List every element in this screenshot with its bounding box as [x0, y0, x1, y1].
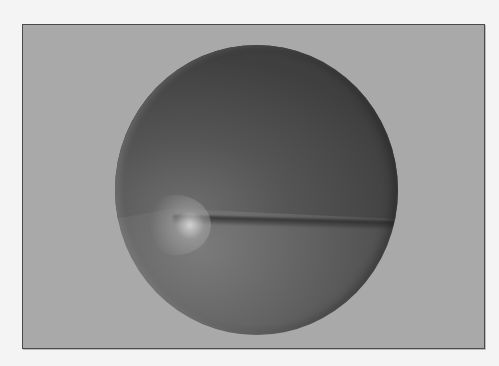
- sphere-rim-shading: [115, 45, 398, 335]
- shaded-sphere: [115, 45, 398, 335]
- render-panel: [22, 24, 485, 349]
